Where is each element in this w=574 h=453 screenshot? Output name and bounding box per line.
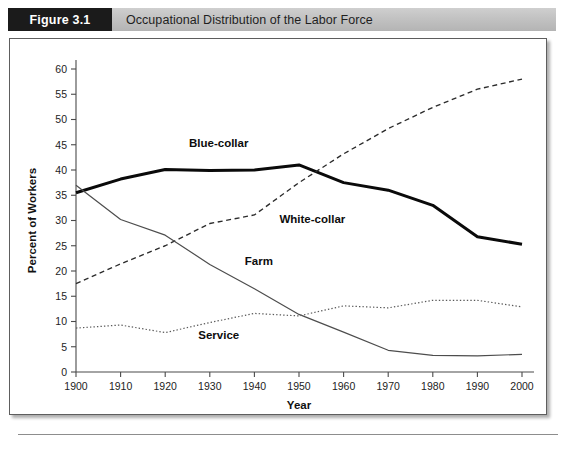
x-tick-label: 1980 (421, 380, 445, 392)
x-tick-label: 2000 (510, 380, 534, 392)
series-label-farm: Farm (245, 255, 273, 267)
series-label-blue-collar: Blue-collar (189, 137, 249, 149)
series-line-blue-collar (76, 165, 522, 244)
series-label-white-collar: White-collar (279, 213, 345, 225)
x-tick-label: 1950 (287, 380, 311, 392)
y-tick-label: 55 (55, 88, 67, 100)
series-label-service: Service (198, 329, 239, 341)
x-tick-label: 1910 (109, 380, 133, 392)
x-tick-label: 1920 (154, 380, 178, 392)
x-tick-label: 1970 (377, 380, 401, 392)
x-axis-title: Year (287, 399, 312, 411)
x-tick-label: 1960 (332, 380, 356, 392)
x-tick-label: 1930 (198, 380, 222, 392)
y-tick-label: 30 (55, 214, 67, 226)
figure-title: Occupational Distribution of the Labor F… (126, 8, 373, 31)
figure-header-band: Figure 3.1 Occupational Distribution of … (8, 8, 556, 31)
series-line-service (76, 300, 522, 332)
y-axis-title: Percent of Workers (26, 168, 38, 273)
y-tick-label: 5 (61, 341, 67, 353)
footer-divider (18, 434, 558, 435)
y-axis-ticks: 051015202530354045505560 (55, 63, 76, 378)
x-tick-label: 1940 (243, 380, 267, 392)
y-tick-label: 45 (55, 139, 67, 151)
y-tick-label: 25 (55, 240, 67, 252)
figure-number-box: Figure 3.1 (8, 8, 112, 31)
y-tick-label: 10 (55, 315, 67, 327)
y-tick-label: 40 (55, 164, 67, 176)
chart-panel: 051015202530354045505560 190019101920193… (9, 38, 547, 415)
y-tick-label: 20 (55, 265, 67, 277)
y-tick-label: 15 (55, 290, 67, 302)
x-axis-ticks: 1900191019201930194019501960197019801990… (64, 372, 534, 392)
figure-number-label: Figure 3.1 (29, 13, 90, 27)
y-tick-label: 0 (61, 366, 67, 378)
x-tick-label: 1990 (466, 380, 490, 392)
series-line-farm (76, 185, 522, 356)
y-tick-label: 35 (55, 189, 67, 201)
y-tick-label: 60 (55, 63, 67, 75)
line-chart: 051015202530354045505560 190019101920193… (10, 39, 546, 414)
x-tick-label: 1900 (64, 380, 88, 392)
y-tick-label: 50 (55, 113, 67, 125)
series-line-white-collar (76, 79, 522, 284)
